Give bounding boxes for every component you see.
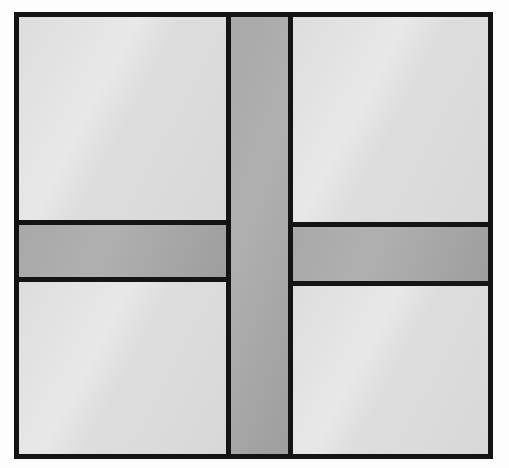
outer-frame bbox=[14, 12, 493, 459]
panel-bottom-left bbox=[19, 281, 226, 454]
panel-bottom-right bbox=[293, 285, 488, 454]
left-transom-bottom-rule bbox=[19, 277, 226, 282]
panel-top-right bbox=[293, 17, 488, 222]
horizontal-transom-band-left bbox=[19, 225, 226, 277]
mullion-right-edge-rule bbox=[288, 17, 293, 454]
horizontal-transom-band-right bbox=[293, 227, 488, 281]
right-transom-top-rule bbox=[293, 222, 488, 227]
left-transom-top-rule bbox=[19, 220, 226, 225]
right-transom-bottom-rule bbox=[293, 281, 488, 286]
mullion-left-edge-rule bbox=[226, 17, 231, 454]
scene-canvas: Cross-Shaped Panel Frame Four light grey… bbox=[0, 0, 509, 468]
vertical-mullion-band bbox=[231, 17, 288, 454]
panel-top-left bbox=[19, 17, 226, 220]
